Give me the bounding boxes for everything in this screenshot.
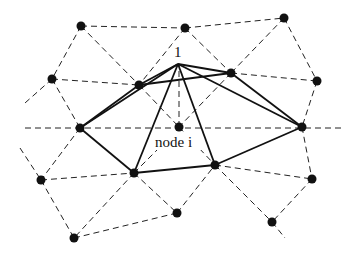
node-i: [175, 123, 184, 132]
node: [77, 22, 86, 31]
node: [173, 209, 182, 218]
node: [280, 14, 289, 23]
node: [37, 176, 46, 185]
node: [76, 124, 85, 133]
node: [130, 169, 139, 178]
node: [298, 123, 307, 132]
apex-label: 1: [174, 44, 182, 60]
pyramid-edges: [80, 64, 302, 173]
node: [313, 77, 322, 86]
node: [308, 175, 317, 184]
node: [227, 69, 236, 78]
node: [135, 81, 144, 90]
mesh-diagram: 1 node i: [0, 0, 359, 256]
node-i-label: node i: [155, 134, 192, 150]
node: [211, 161, 220, 170]
node: [70, 234, 79, 243]
node: [48, 75, 57, 84]
node: [181, 24, 190, 33]
node: [268, 218, 277, 227]
